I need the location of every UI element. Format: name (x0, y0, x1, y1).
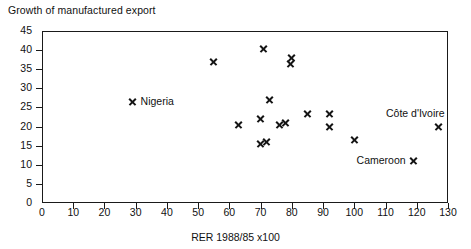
x-tick-mark (104, 203, 105, 209)
data-point-marker (303, 109, 312, 118)
y-tick-label: 45 (6, 24, 32, 36)
data-point-marker (325, 122, 334, 131)
x-tick-mark (417, 203, 418, 209)
data-point-marker (256, 114, 265, 123)
y-tick-mark (36, 88, 42, 89)
y-tick-mark (36, 184, 42, 185)
y-tick-label: 15 (6, 139, 32, 151)
data-point-marker (286, 59, 295, 68)
y-tick-label: 10 (6, 158, 32, 170)
y-tick-label: 35 (6, 62, 32, 74)
data-point-marker (325, 109, 334, 118)
x-tick-mark (292, 203, 293, 209)
x-tick-mark (167, 203, 168, 209)
point-label-cameroon: Cameroon (357, 154, 406, 166)
x-tick-mark (448, 203, 449, 209)
y-tick-label: 5 (6, 177, 32, 189)
y-tick-label: 25 (6, 100, 32, 112)
x-tick-mark (386, 203, 387, 209)
y-tick-label: 40 (6, 43, 32, 55)
point-label-c-te-d-ivoire: Côte d'Ivoire (386, 107, 445, 119)
x-tick-mark (229, 203, 230, 209)
scatter-chart: Growth of manufactured export 0510152025… (0, 0, 471, 249)
point-label-nigeria: Nigeria (141, 95, 174, 107)
data-point-marker (350, 135, 359, 144)
data-point-marker (234, 120, 243, 129)
data-point-marker (209, 57, 218, 66)
x-tick-mark (261, 203, 262, 209)
y-tick-mark (36, 107, 42, 108)
data-point-marker (259, 44, 268, 53)
data-point-marker (281, 118, 290, 127)
x-tick-mark (136, 203, 137, 209)
data-point-marker (262, 137, 271, 146)
x-tick-mark (323, 203, 324, 209)
data-point-marker (434, 122, 443, 131)
y-tick-mark (36, 165, 42, 166)
y-tick-mark (36, 127, 42, 128)
x-tick-mark (198, 203, 199, 209)
y-tick-label: 30 (6, 81, 32, 93)
y-tick-mark (36, 146, 42, 147)
x-axis-title: RER 1988/85 x100 (0, 231, 471, 243)
data-point-marker (265, 95, 274, 104)
y-tick-mark (36, 69, 42, 70)
y-tick-mark (36, 50, 42, 51)
chart-title: Growth of manufactured export (8, 4, 156, 16)
x-tick-label: 0 (29, 206, 55, 218)
x-tick-mark (354, 203, 355, 209)
data-point-marker (128, 97, 137, 106)
data-point-marker (409, 156, 418, 165)
y-tick-label: 20 (6, 120, 32, 132)
x-tick-mark (73, 203, 74, 209)
